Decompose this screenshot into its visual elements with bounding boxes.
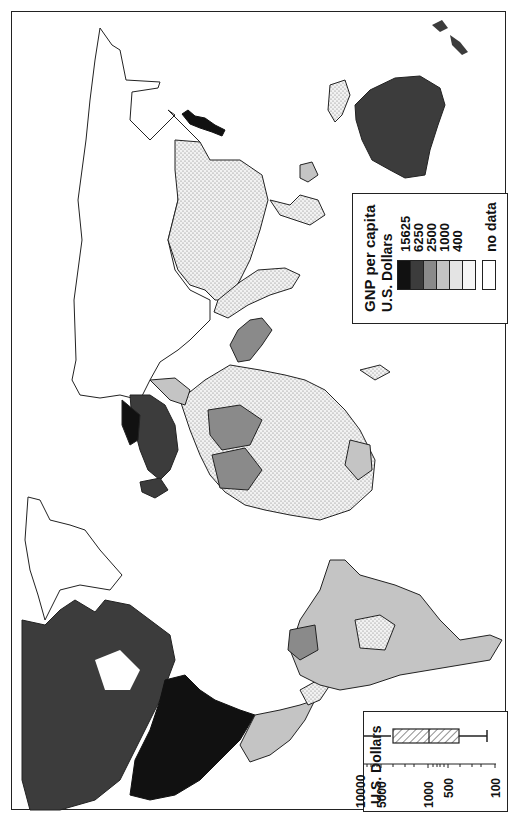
region-malaysia — [300, 162, 318, 182]
tick-1000: 1000 — [422, 781, 436, 808]
tick-100: 100 — [489, 778, 503, 798]
legend-swatch-15625 — [397, 260, 411, 290]
region-middle-east — [230, 318, 272, 362]
legend-swatch-1000 — [436, 260, 450, 290]
boxplot-inset: U.S. Dollars 10000 5000 1000 500 100 — [363, 711, 508, 812]
legend-swatch-400 — [449, 260, 463, 290]
legend: GNP per capita U.S. Dollars 15625 6250 2… — [352, 193, 508, 324]
legend-value-400: 400 — [451, 230, 464, 252]
tick-10000: 10000 — [354, 775, 368, 808]
region-australia — [355, 76, 445, 178]
legend-swatch-no-data — [482, 260, 496, 290]
region-new-zealand-south — [450, 35, 468, 55]
region-new-zealand-north — [432, 20, 448, 32]
region-madagascar — [360, 365, 390, 380]
legend-swatch-6250 — [410, 260, 424, 290]
legend-title: GNP per capita — [361, 205, 378, 312]
tick-500: 500 — [442, 778, 456, 798]
tick-5000: 5000 — [375, 781, 389, 808]
region-mexico — [240, 700, 315, 762]
region-south-america — [290, 560, 502, 690]
region-indonesia — [270, 195, 325, 225]
legend-swatch-2500 — [423, 260, 437, 290]
region-africa — [180, 365, 375, 520]
legend-subtitle: U.S. Dollars — [379, 233, 395, 312]
region-uk — [140, 478, 168, 498]
region-philippines — [328, 80, 350, 122]
legend-swatch-lowest — [462, 260, 476, 290]
world-map — [0, 0, 520, 818]
legend-no-data-label: no data — [483, 202, 499, 252]
